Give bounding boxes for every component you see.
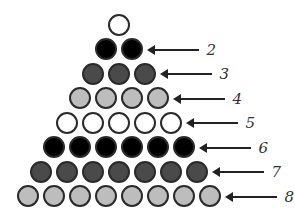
- ball: [199, 185, 221, 207]
- ball: [69, 185, 91, 207]
- ball: [95, 136, 117, 158]
- row-count-label: 8: [285, 189, 295, 205]
- ball: [69, 87, 91, 109]
- ball: [17, 185, 39, 207]
- ball: [56, 112, 78, 134]
- ball: [82, 112, 104, 134]
- ball: [186, 161, 208, 183]
- ball: [43, 136, 65, 158]
- ball: [134, 63, 156, 85]
- ball: [95, 38, 117, 60]
- row-count-label: 2: [207, 42, 217, 58]
- ball: [108, 112, 130, 134]
- ball: [30, 161, 52, 183]
- ball: [121, 185, 143, 207]
- ball: [82, 161, 104, 183]
- ball: [160, 112, 182, 134]
- ball: [147, 185, 169, 207]
- arrow-icon: [175, 98, 225, 100]
- arrow-icon: [188, 122, 238, 124]
- ball: [147, 136, 169, 158]
- ball: [121, 87, 143, 109]
- row-count-label: 5: [246, 115, 256, 131]
- row-count-label: 4: [233, 91, 243, 107]
- ball: [108, 63, 130, 85]
- ball-triangle-diagram: 2345678: [0, 0, 295, 220]
- arrow-icon: [162, 73, 212, 75]
- ball: [95, 185, 117, 207]
- ball: [173, 185, 195, 207]
- ball: [173, 136, 195, 158]
- ball: [121, 136, 143, 158]
- ball: [43, 185, 65, 207]
- row-count-label: 7: [272, 164, 282, 180]
- ball: [108, 14, 130, 36]
- ball: [134, 161, 156, 183]
- ball: [56, 161, 78, 183]
- arrow-icon: [227, 196, 277, 198]
- arrow-icon: [149, 49, 199, 51]
- row-count-label: 3: [220, 66, 230, 82]
- ball: [147, 87, 169, 109]
- ball: [134, 112, 156, 134]
- ball: [69, 136, 91, 158]
- ball: [160, 161, 182, 183]
- arrow-icon: [214, 171, 264, 173]
- ball: [108, 161, 130, 183]
- ball: [95, 87, 117, 109]
- ball: [121, 38, 143, 60]
- row-count-label: 6: [259, 140, 269, 156]
- ball: [82, 63, 104, 85]
- arrow-icon: [201, 147, 251, 149]
